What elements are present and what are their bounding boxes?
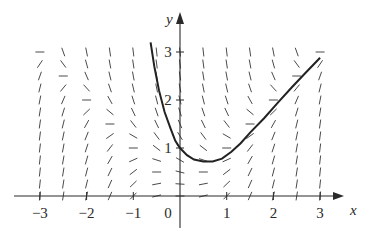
slope-segment	[320, 168, 321, 177]
slope-segment	[129, 134, 137, 139]
slope-segment	[156, 96, 158, 105]
slope-segment	[85, 132, 88, 140]
slope-segment	[108, 180, 112, 188]
slope-segment	[319, 96, 321, 105]
slope-segment	[272, 144, 275, 153]
slope-field-diagram: −3−2−10123 123 x y	[0, 0, 367, 236]
slope-segment	[62, 120, 64, 129]
x-tick-label: 0	[164, 205, 172, 221]
y-tick-label: 3	[164, 44, 172, 60]
slope-segment	[225, 108, 229, 116]
slope-segment	[223, 181, 229, 187]
slope-segment	[248, 156, 252, 164]
slope-segment	[226, 72, 228, 81]
slope-segment	[272, 132, 275, 140]
slope-segment	[131, 120, 137, 127]
x-axis-arrow-icon	[333, 192, 344, 200]
slope-segment	[296, 168, 297, 177]
slope-segment	[39, 120, 40, 129]
slope-segment	[108, 96, 112, 104]
slope-segment	[38, 72, 41, 80]
y-axis-arrow-icon	[176, 12, 184, 24]
slope-segment	[272, 156, 274, 165]
slope-segment	[62, 156, 64, 165]
slope-segment	[85, 144, 88, 153]
slope-segment	[203, 48, 204, 57]
slope-segment	[223, 169, 230, 174]
slope-segment	[296, 180, 297, 189]
slope-segment	[129, 158, 137, 162]
slope-segment	[152, 159, 161, 162]
slope-segment	[226, 84, 228, 93]
slope-segment	[294, 60, 299, 67]
slope-segment	[272, 72, 276, 80]
slope-segment	[271, 120, 275, 128]
slope-segment	[320, 156, 321, 165]
slope-segment	[83, 109, 89, 115]
slope-segment	[130, 169, 137, 174]
slope-segment	[62, 108, 65, 117]
slope-segment	[295, 48, 298, 56]
slope-segment	[109, 48, 110, 57]
slope-segment	[106, 133, 113, 138]
slope-segment	[106, 109, 113, 115]
slope-segment	[39, 84, 41, 93]
slope-segment	[249, 84, 252, 93]
slope-segment	[131, 108, 135, 116]
slope-segment	[319, 72, 322, 80]
slope-segment	[61, 96, 65, 104]
slope-segment	[296, 120, 298, 129]
slope-segment	[202, 108, 205, 117]
slope-segment	[62, 48, 65, 56]
slope-segment	[319, 108, 320, 117]
slope-segment	[225, 96, 228, 105]
slope-segment	[226, 48, 227, 57]
slope-segment	[296, 132, 298, 141]
slope-segment	[296, 156, 298, 165]
slope-segment	[63, 180, 64, 189]
slope-segment	[223, 134, 231, 139]
slope-segment	[202, 96, 204, 105]
slope-segment	[39, 96, 41, 105]
slope-segment	[272, 168, 274, 177]
slope-segment	[156, 60, 157, 69]
slope-segment	[319, 120, 320, 129]
slope-segment	[85, 168, 87, 177]
slope-segment	[108, 84, 111, 93]
slope-segment	[320, 132, 321, 141]
slope-segment	[203, 60, 204, 69]
slope-segment	[318, 60, 323, 67]
slope-segment	[226, 60, 227, 69]
x-tick-label: −3	[32, 205, 48, 221]
slope-segment	[202, 84, 204, 93]
slope-segment	[201, 132, 206, 139]
slope-segment	[63, 168, 64, 177]
slope-segment	[39, 108, 40, 117]
slope-segment	[296, 144, 298, 153]
slope-segment	[295, 96, 299, 104]
y-axis-label: y	[164, 11, 173, 27]
slope-segment	[85, 60, 87, 69]
slope-segment	[84, 85, 90, 92]
slope-segment	[84, 120, 88, 128]
slope-segment	[86, 180, 88, 189]
slope-segment	[39, 132, 40, 141]
slope-segment	[133, 48, 134, 57]
slope-segment	[248, 168, 252, 176]
slope-segment	[223, 158, 231, 162]
slope-segment	[200, 145, 207, 150]
slope-segment	[109, 72, 111, 81]
slope-segment	[249, 60, 251, 69]
slope-segment	[133, 60, 134, 69]
slope-segment	[85, 156, 87, 165]
slope-segment	[39, 144, 40, 153]
slope-segment	[130, 181, 136, 187]
slope-segment	[273, 48, 275, 57]
slope-segment	[201, 120, 205, 128]
slope-segment	[320, 144, 321, 153]
slope-segment	[156, 48, 157, 57]
slope-segment	[39, 168, 40, 177]
slope-segment	[39, 156, 40, 165]
y-tick-label: 2	[164, 92, 172, 108]
slope-segment	[107, 144, 113, 151]
